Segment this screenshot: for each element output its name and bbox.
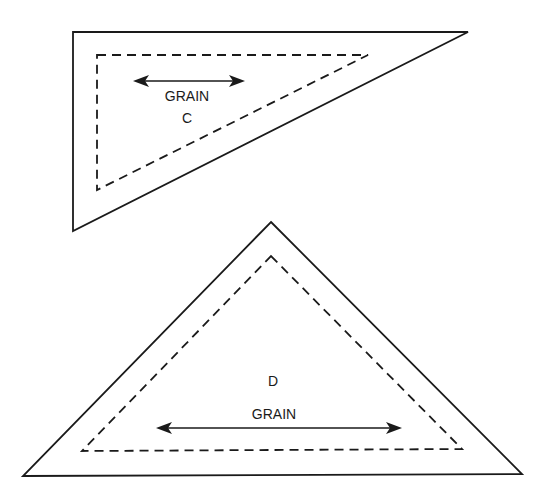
piece-label-d: D — [268, 373, 278, 389]
cutting-line-c — [73, 32, 468, 231]
pattern-piece-c: GRAIN C — [73, 32, 468, 231]
piece-label-c: C — [182, 110, 192, 126]
pattern-diagram: GRAIN C D GRAIN — [0, 0, 553, 501]
cutting-line-d — [23, 222, 522, 476]
grain-arrow-c — [133, 75, 245, 87]
grain-label-c: GRAIN — [165, 88, 209, 104]
grain-label-d: GRAIN — [252, 406, 296, 422]
grain-arrow-d — [156, 422, 402, 434]
pattern-piece-d: D GRAIN — [23, 222, 522, 476]
seam-line-c — [97, 55, 368, 190]
